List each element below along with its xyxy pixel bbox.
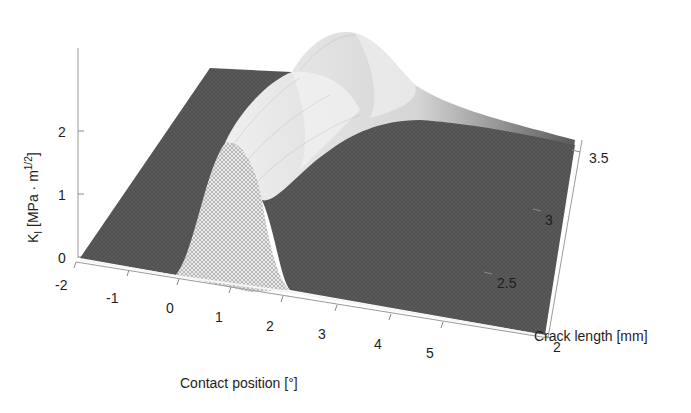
x-axis-label: Contact position [°]: [180, 375, 298, 391]
y-tick-3: 3: [545, 212, 553, 228]
x-tick--2: -2: [55, 277, 68, 293]
y-tick-2-5: 2.5: [497, 275, 517, 291]
z-tick-1: 1: [58, 187, 66, 203]
z-axis: 0 1 2 KI [MPa · m1/2]: [23, 48, 84, 266]
z-tick-2: 2: [58, 124, 66, 140]
surface-plot: 0 1 2 KI [MPa · m1/2]: [0, 0, 691, 413]
y-axis-label: Crack length [mm]: [534, 328, 648, 344]
x-tick-5: 5: [426, 345, 434, 361]
y-tick-3-5: 3.5: [589, 150, 609, 166]
x-tick-4: 4: [374, 336, 382, 352]
x-tick-2: 2: [266, 318, 274, 334]
x-tick-0: 0: [166, 300, 174, 316]
z-axis-label: KI [MPa · m1/2]: [23, 152, 44, 243]
x-tick-3: 3: [318, 326, 326, 342]
x-tick-1: 1: [215, 309, 223, 325]
z-tick-0: 0: [58, 250, 66, 266]
x-tick--1: -1: [106, 290, 119, 306]
